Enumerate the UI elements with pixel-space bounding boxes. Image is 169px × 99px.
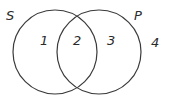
region-3-label: 3	[107, 33, 115, 48]
venn-diagram: S P 1 2 3 4	[0, 0, 169, 99]
set-p-circle	[57, 10, 141, 94]
region-2-label: 2	[73, 33, 81, 48]
region-1-label: 1	[40, 33, 48, 48]
set-p-label: P	[134, 8, 142, 23]
region-4-label: 4	[151, 35, 159, 50]
set-s-label: S	[6, 8, 14, 23]
set-s-circle	[13, 10, 97, 94]
